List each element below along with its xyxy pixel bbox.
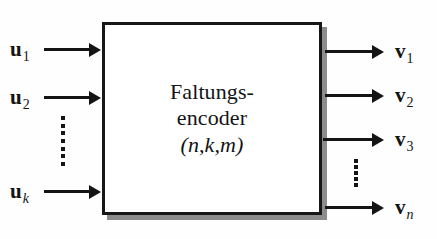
output-vertical-ellipsis: [353, 159, 358, 187]
output-arrow-v1: [325, 50, 373, 53]
output-label-v3: v3: [395, 129, 413, 150]
convolutional-encoder-diagram: Faltungs- encoder (n,k,m) u1 u2 uk v1 v2…: [0, 0, 437, 239]
output-arrow-v3: [323, 138, 373, 141]
output-arrow-vn: [325, 206, 373, 209]
encoder-box: [102, 22, 322, 215]
input-label-u2: u2: [10, 87, 29, 108]
input-arrow-u2: [44, 96, 90, 99]
output-arrow-v2: [325, 94, 373, 97]
input-arrow-u1: [44, 48, 90, 51]
output-label-v1: v1: [395, 41, 413, 62]
output-label-v2: v2: [395, 85, 413, 106]
input-vertical-ellipsis: [60, 116, 65, 166]
input-label-u1: u1: [10, 39, 29, 60]
output-label-vn: vn: [395, 197, 413, 218]
input-label-uk: uk: [10, 181, 28, 202]
input-arrow-uk: [44, 190, 90, 193]
